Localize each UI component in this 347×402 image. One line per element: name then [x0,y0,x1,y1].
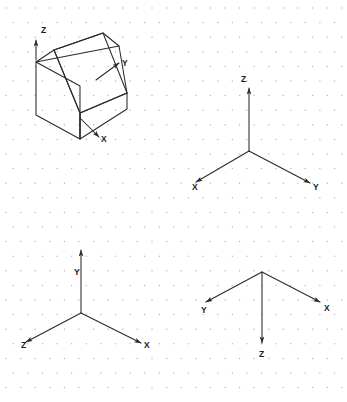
drawing-page: Z Y X Z X Y Y Z X Z Y X [0,0,347,402]
dot-grid-background [0,0,347,402]
